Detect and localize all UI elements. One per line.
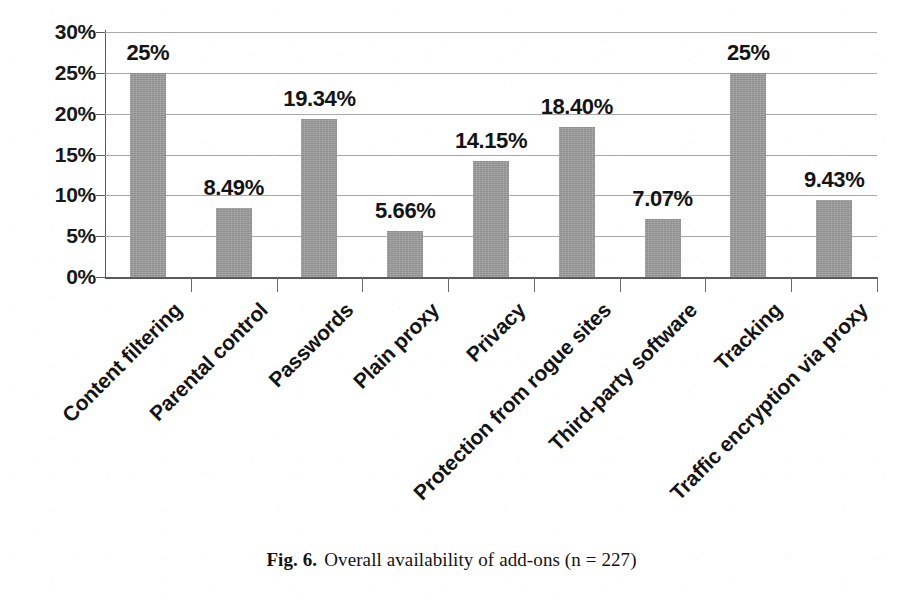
y-axis-tick [96,277,105,278]
x-axis-category-label-text: Tracking [710,298,787,375]
x-axis-category-label: Tracking [710,298,787,375]
bar[interactable] [301,119,337,277]
bar-value-label: 18.40% [541,94,613,120]
x-axis-line [105,277,878,279]
bar-value-label: 25% [126,40,169,66]
y-axis-tick [96,195,105,196]
bar-value-label: 8.49% [203,175,263,201]
bar-value-label: 5.66% [375,198,435,224]
y-axis-tick [96,155,105,156]
x-axis-tick [791,277,792,292]
x-axis-tick [620,277,621,292]
y-axis-tick [96,114,105,115]
x-axis-category-label: Third-party software [544,298,702,456]
figure-caption-text: Overall availability of add-ons (n = 227… [324,549,636,570]
x-axis-category-label-text: Plain proxy [349,298,444,393]
bar-value-label: 19.34% [283,86,355,112]
gridline [105,32,877,33]
bar-value-label: 9.43% [804,167,864,193]
bar[interactable] [130,73,166,277]
bar[interactable] [559,127,595,277]
x-axis-category-label: Passwords [264,298,358,392]
bar-value-label: 7.07% [632,186,692,212]
x-axis-category-label-text: Privacy [461,298,530,367]
x-axis-tick [277,277,278,292]
y-axis-tick-labels: 0%5%10%15%20%25%30% [6,32,96,277]
bar-value-label: 14.15% [455,128,527,154]
x-axis-tick [191,277,192,292]
bar[interactable] [730,73,766,277]
x-axis-category-label-text: Third-party software [544,298,702,456]
y-axis-tick-label: 15% [18,143,96,167]
y-axis-tick-label: 20% [18,102,96,126]
y-axis-tick-label: 0% [18,265,96,289]
y-axis-tick-label: 30% [18,20,96,44]
x-axis-category-label: Privacy [461,298,530,367]
y-axis-tick [96,32,105,33]
figure-number: Fig. 6. [266,549,317,570]
bar-value-label: 25% [727,40,770,66]
x-axis-category-label: Plain proxy [349,298,444,393]
figure-caption: Fig. 6.Overall availability of add-ons (… [0,549,903,571]
bar[interactable] [645,219,681,277]
x-axis-tick [877,277,878,292]
x-axis-tick [362,277,363,292]
y-axis-tick [96,236,105,237]
x-axis-category-label-text: Passwords [264,298,358,392]
x-axis-tick [534,277,535,292]
bar[interactable] [816,200,852,277]
figure-container: 0%5%10%15%20%25%30% 25%Content filtering… [0,0,903,611]
y-axis-tick-label: 25% [18,61,96,85]
bar[interactable] [473,161,509,277]
y-axis-tick-label: 10% [18,183,96,207]
y-axis-tick [96,73,105,74]
bar[interactable] [216,208,252,277]
x-axis-tick [705,277,706,292]
plot-area [105,32,877,277]
y-axis-tick-label: 5% [18,224,96,248]
bar[interactable] [387,231,423,277]
x-axis-tick [448,277,449,292]
